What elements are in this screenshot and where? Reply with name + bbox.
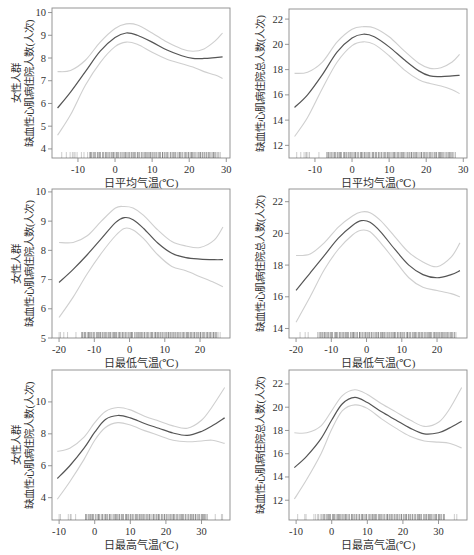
plot-area — [58, 24, 223, 158]
x-tick-label: 10 — [384, 164, 395, 175]
x-axis: -20-1001020 — [289, 338, 442, 355]
lower-ci-curve — [294, 405, 461, 499]
y-axis-label: 缺血性心肌病住院总人数(人次) — [254, 15, 267, 152]
y-tick-label: 10 — [36, 396, 47, 407]
x-tick-label: -10 — [308, 164, 322, 175]
y-tick-label: 8 — [41, 245, 46, 256]
y-tick-label: 6 — [41, 98, 46, 109]
upper-ci-curve — [59, 206, 223, 247]
y-tick-label: 18 — [273, 64, 284, 75]
estimate-curve — [296, 220, 460, 290]
y-tick-label: 16 — [273, 448, 284, 459]
y-tick-label: 20 — [273, 39, 284, 50]
x-tick-label: 0 — [349, 164, 354, 175]
x-tick-label: 0 — [112, 164, 117, 175]
y-tick-label: 14 — [273, 115, 284, 126]
x-tick-label: 20 — [195, 344, 206, 355]
y-tick-label: 7 — [41, 75, 46, 86]
y-tick-label: 6 — [41, 460, 46, 471]
y-axis-label: 女性人群 — [10, 62, 22, 103]
x-tick-label: 10 — [362, 526, 373, 537]
estimate-curve — [58, 33, 223, 108]
x-axis: -100102030 — [71, 158, 232, 175]
y-tick-label: 16 — [273, 291, 284, 302]
rug-marks — [62, 152, 221, 158]
rug-marks — [297, 152, 456, 158]
estimate-curve — [59, 217, 223, 282]
x-tick-label: 30 — [458, 164, 469, 175]
x-tick-label: 30 — [433, 526, 444, 537]
plot-area — [295, 27, 460, 158]
y-axis-label: 缺血性心肌病住院人数(人次) — [23, 381, 36, 508]
panel-total-max-temp: 121416182022-100102030日最高气温(℃)缺血性心肌病住院总人… — [254, 370, 467, 552]
y-tick-label: 9 — [41, 30, 46, 41]
x-tick-label: 20 — [184, 164, 195, 175]
figure-canvas: 45678910-100102030日平均气温(℃)女性人群缺血性心肌病住院人数… — [0, 0, 474, 555]
y-tick-label: 10 — [36, 7, 47, 18]
plot-frame — [52, 8, 230, 158]
x-axis-label: 日平均气温(℃) — [341, 176, 416, 190]
y-axis-label: 缺血性心肌病住院人数(人次) — [23, 200, 36, 327]
x-axis: -100102030 — [289, 520, 444, 537]
x-tick-label: -20 — [289, 344, 303, 355]
y-tick-label: 9 — [41, 216, 46, 227]
rug-marks — [298, 514, 457, 520]
estimate-curve — [295, 34, 460, 107]
plot-area — [294, 387, 461, 520]
y-tick-label: 5 — [41, 333, 46, 344]
plot-area — [296, 212, 460, 338]
y-tick-label: 22 — [273, 196, 284, 207]
x-axis-label: 日平均气温(℃) — [104, 176, 179, 190]
panel-total-mean-temp: 121416182022-100102030日平均气温(℃)缺血性心肌病住院总人… — [254, 9, 469, 190]
y-tick-label: 20 — [273, 228, 284, 239]
y-axis-label: 缺血性心肌病住院人数(人次) — [23, 19, 36, 146]
x-axis-label: 日最低气温(℃) — [104, 356, 179, 370]
y-axis: 5678910 — [36, 186, 53, 343]
x-tick-label: 20 — [421, 164, 432, 175]
y-tick-label: 16 — [273, 89, 284, 100]
y-axis-label: 缺血性心肌病住院总人数(人次) — [254, 195, 267, 332]
x-tick-label: 0 — [329, 526, 334, 537]
upper-ci-curve — [58, 24, 223, 72]
x-axis: -100102030 — [52, 520, 207, 537]
y-tick-label: 8 — [41, 428, 46, 439]
y-tick-label: 4 — [41, 492, 47, 503]
y-tick-label: 22 — [273, 378, 284, 389]
y-tick-label: 12 — [273, 140, 284, 151]
y-tick-label: 18 — [273, 425, 284, 436]
plot-area — [59, 206, 223, 338]
x-axis-label: 日最高气温(℃) — [341, 538, 416, 552]
y-tick-label: 20 — [273, 402, 284, 413]
x-tick-label: 0 — [127, 344, 132, 355]
x-tick-label: 10 — [147, 164, 158, 175]
x-tick-label: 10 — [125, 526, 136, 537]
x-axis: -20-1001020 — [52, 338, 205, 355]
lower-ci-curve — [295, 42, 460, 137]
y-tick-label: 5 — [41, 121, 46, 132]
x-tick-label: 20 — [398, 526, 409, 537]
x-tick-label: 0 — [92, 526, 97, 537]
x-tick-label: 30 — [196, 526, 207, 537]
x-axis-label: 日最高气温(℃) — [104, 538, 179, 552]
y-tick-label: 14 — [273, 471, 284, 482]
x-axis-label: 日最低气温(℃) — [341, 356, 416, 370]
plot-area — [57, 388, 224, 520]
y-axis: 121416182022 — [273, 378, 290, 505]
x-tick-label: 10 — [160, 344, 171, 355]
panel-female-min-temp: 5678910-20-1001020日最低气温(℃)女性人群缺血性心肌病住院人数… — [10, 186, 230, 370]
y-axis: 1416182022 — [273, 196, 290, 334]
y-tick-label: 22 — [273, 14, 284, 25]
estimate-curve — [57, 415, 224, 478]
rug-marks — [300, 332, 456, 338]
y-tick-label: 18 — [273, 260, 284, 271]
x-tick-label: 30 — [221, 164, 232, 175]
plot-frame — [289, 189, 467, 338]
y-tick-label: 8 — [41, 53, 46, 64]
x-tick-label: -10 — [87, 344, 101, 355]
x-tick-label: 20 — [161, 526, 172, 537]
lower-ci-curve — [296, 230, 460, 322]
x-tick-label: -10 — [52, 526, 66, 537]
panel-female-max-temp: 46810-100102030日最高气温(℃)女性人群缺血性心肌病住院人数(人次… — [10, 370, 230, 552]
y-axis: 46810 — [36, 396, 53, 503]
x-tick-label: 0 — [364, 344, 369, 355]
